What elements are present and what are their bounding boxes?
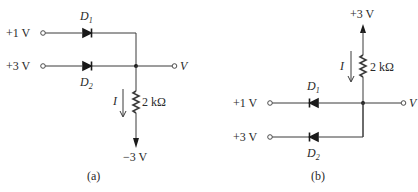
resistor-label-b: 2 kΩ [370, 60, 394, 74]
diode-label-a-d2: D2 [79, 75, 93, 91]
input-terminal-b-1 [268, 101, 273, 106]
input-terminal-a-2 [41, 64, 46, 69]
supply-arrow-a-icon [133, 138, 139, 148]
output-label-a: V [180, 59, 189, 73]
supply-label-a: −3 V [123, 150, 148, 164]
diode-label-b-d2: D2 [306, 146, 320, 162]
resistor-a-icon [133, 91, 139, 113]
wire-b-2-right [318, 103, 363, 137]
diode-b-d1-icon [310, 99, 319, 108]
wire-a-1-right [92, 33, 136, 66]
diode-a-d1-icon [83, 29, 92, 38]
input-label-a-2: +3 V [6, 59, 31, 73]
diode-circuits-figure: +1 V D1 +3 V D2 V 2 kΩ I [0, 0, 418, 192]
output-terminal-b [401, 101, 406, 106]
output-label-b: V [409, 96, 418, 110]
current-label-a: I [112, 94, 118, 108]
diode-b-d2-icon [310, 133, 319, 142]
caption-a: (a) [87, 169, 100, 183]
supply-label-b: +3 V [350, 7, 375, 21]
circuit-b: +3 V 2 kΩ I V +1 V D1 +3 V [233, 7, 418, 183]
resistor-b-icon [360, 55, 366, 77]
output-terminal-a [172, 64, 177, 69]
input-terminal-a-1 [41, 31, 46, 36]
input-label-a-1: +1 V [6, 26, 31, 40]
caption-b: (b) [311, 169, 325, 183]
diode-label-b-d1: D1 [306, 79, 320, 95]
resistor-label-a: 2 kΩ [142, 95, 166, 109]
input-label-b-1: +1 V [233, 96, 258, 110]
diode-a-d2-icon [83, 62, 92, 71]
input-terminal-b-2 [268, 135, 273, 140]
diode-label-a-d1: D1 [79, 9, 93, 25]
circuit-a: +1 V D1 +3 V D2 V 2 kΩ I [6, 9, 189, 183]
input-label-b-2: +3 V [233, 130, 258, 144]
current-label-b: I [339, 59, 345, 73]
